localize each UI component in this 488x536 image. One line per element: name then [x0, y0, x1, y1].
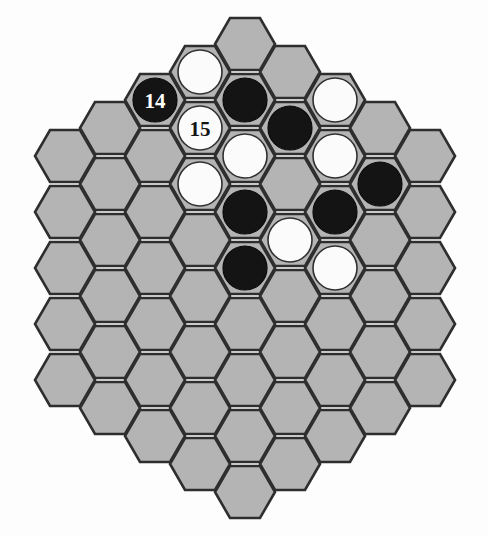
stone-move-number: 15: [190, 117, 211, 141]
black-stone[interactable]: [223, 190, 267, 234]
hex-board-svg: 1415: [0, 0, 488, 536]
hex-board-container: 1415: [0, 0, 488, 536]
hex-cell[interactable]: [395, 298, 455, 350]
white-stone[interactable]: [178, 162, 222, 206]
white-stone[interactable]: [313, 78, 357, 122]
black-stone[interactable]: [268, 106, 312, 150]
white-stone[interactable]: [223, 134, 267, 178]
black-stone[interactable]: [313, 190, 357, 234]
white-stone[interactable]: [178, 50, 222, 94]
black-stone[interactable]: [358, 162, 402, 206]
hex-cell[interactable]: [395, 354, 455, 406]
black-stone[interactable]: [223, 246, 267, 290]
hex-cell[interactable]: [395, 242, 455, 294]
hex-cell[interactable]: [395, 130, 455, 182]
white-stone[interactable]: [313, 246, 357, 290]
stone-move-number: 14: [145, 89, 167, 113]
black-stone[interactable]: [223, 78, 267, 122]
hex-cell[interactable]: [395, 186, 455, 238]
white-stone[interactable]: [268, 218, 312, 262]
white-stone[interactable]: [313, 134, 357, 178]
